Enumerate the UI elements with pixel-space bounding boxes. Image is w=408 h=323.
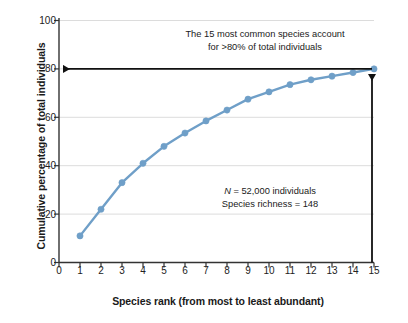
- sample-size-value: = 52,000 individuals: [231, 186, 316, 196]
- data-point-13: [329, 73, 335, 79]
- y-tick-label-80: 80: [16, 64, 56, 74]
- annotation-stats-line2: Species richness = 148: [170, 198, 370, 211]
- y-axis-ticks: [54, 21, 59, 263]
- data-point-6: [182, 130, 188, 136]
- data-point-1: [77, 233, 83, 239]
- data-point-7: [203, 118, 209, 124]
- data-point-12: [308, 77, 314, 83]
- data-point-8: [224, 107, 230, 113]
- annotation-callout-line2: for >80% of total individuals: [140, 41, 390, 54]
- annotation-stats-line1: N = 52,000 individuals: [170, 185, 370, 198]
- data-point-10: [266, 89, 272, 95]
- data-point-14: [350, 69, 356, 75]
- x-tick-label-15: 15: [362, 266, 386, 276]
- annotation-callout-line1: The 15 most common species account: [140, 28, 390, 41]
- chart-figure: Cumulative percentage of total individua…: [0, 0, 408, 323]
- y-axis-title: Cumulative percentage of total individua…: [35, 21, 47, 271]
- data-point-3: [119, 180, 125, 186]
- data-point-4: [140, 160, 146, 166]
- y-tick-label-60: 60: [16, 113, 56, 123]
- data-point-2: [98, 206, 104, 212]
- series-markers: [77, 66, 377, 239]
- x-axis-title: Species rank (from most to least abundan…: [58, 295, 378, 307]
- sample-size-symbol: N: [224, 186, 231, 196]
- data-point-11: [287, 82, 293, 88]
- y-tick-label-40: 40: [16, 161, 56, 171]
- y-tick-label-20: 20: [16, 210, 56, 220]
- y-tick-label-100: 100: [16, 16, 56, 26]
- data-point-5: [161, 143, 167, 149]
- data-point-9: [245, 96, 251, 102]
- annotation-stats: N = 52,000 individuals Species richness …: [170, 185, 370, 212]
- annotation-callout-top: The 15 most common species account for >…: [140, 28, 390, 55]
